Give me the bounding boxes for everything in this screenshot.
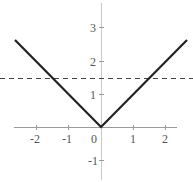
- y-tick-label: 3: [90, 21, 96, 35]
- chart: -2 -1 0 1 2 3 2 1 -1: [0, 0, 193, 182]
- x-tick-label: -2: [30, 132, 40, 146]
- y-tick-label: -1: [88, 154, 98, 168]
- x-tick-label: 1: [130, 132, 136, 146]
- x-tick-label: 0: [91, 132, 97, 146]
- x-tick-label: -1: [62, 132, 72, 146]
- y-tick-label: 1: [90, 88, 96, 102]
- x-tick-label: 2: [162, 132, 168, 146]
- y-tick-label: 2: [90, 55, 96, 69]
